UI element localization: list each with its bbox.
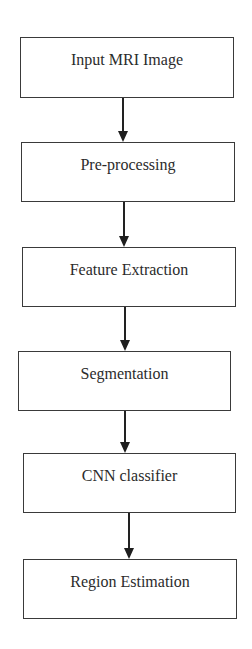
- arrow-line: [122, 98, 124, 132]
- arrow-head-icon: [118, 131, 128, 142]
- arrow-line: [128, 513, 130, 549]
- arrow-head-icon: [119, 236, 129, 247]
- arrow-head-icon: [120, 442, 130, 453]
- node-feature-extraction: Feature Extraction: [22, 247, 236, 307]
- node-label: Pre-processing: [22, 155, 234, 175]
- node-input-mri-image: Input MRI Image: [20, 37, 234, 98]
- arrow-line: [124, 411, 126, 443]
- arrow-line: [124, 307, 126, 341]
- node-label: Input MRI Image: [21, 50, 233, 70]
- arrow-head-icon: [124, 548, 134, 559]
- arrow-line: [123, 202, 125, 237]
- node-pre-processing: Pre-processing: [21, 142, 235, 202]
- arrow-head-icon: [120, 340, 130, 351]
- node-region-estimation: Region Estimation: [23, 559, 237, 619]
- node-label: CNN classifier: [24, 466, 235, 486]
- node-segmentation: Segmentation: [18, 351, 231, 411]
- node-label: Segmentation: [19, 364, 230, 384]
- node-cnn-classifier: CNN classifier: [23, 453, 236, 513]
- node-label: Feature Extraction: [23, 260, 235, 280]
- node-label: Region Estimation: [24, 572, 236, 592]
